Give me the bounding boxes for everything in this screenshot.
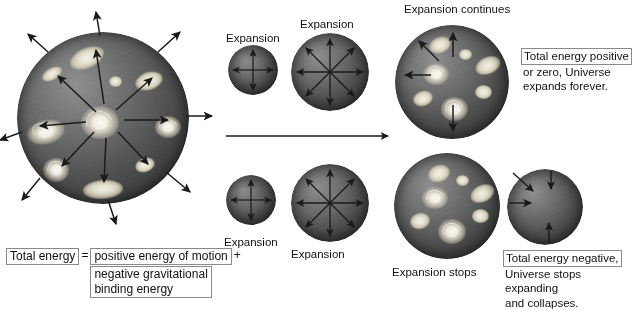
- equation-negative-term: negative gravitationalbinding energy: [90, 266, 211, 298]
- textbox-positive-highlight: Total energy positive: [521, 48, 632, 65]
- universe-top-small: [228, 45, 278, 95]
- caption-expansion-top-2: Expansion: [300, 18, 354, 31]
- sphere-rim: [395, 25, 509, 139]
- equation-right-side: positive energy of motion+negative gravi…: [90, 248, 242, 298]
- universe-bottom-medium: [291, 164, 369, 242]
- universe-bottom-large: [394, 153, 500, 259]
- caption-expansion-top-1: Expansion: [226, 32, 280, 45]
- sphere-rim: [291, 164, 369, 242]
- textbox-negative-line-2: Universe stops expanding: [503, 267, 635, 296]
- universe-top-medium: [291, 33, 369, 111]
- sphere-rim: [291, 33, 369, 111]
- textbox-positive-line-3: expands forever.: [521, 79, 633, 94]
- sphere-rim: [17, 32, 189, 204]
- sphere-rim: [507, 169, 583, 245]
- total-energy-equation: Total energy=positive energy of motion+n…: [6, 248, 243, 298]
- textbox-negative-highlight: Total energy negative,: [503, 250, 622, 267]
- sphere-rim: [394, 153, 500, 259]
- textbox-total-energy-positive: Total energy positive or zero, Universe …: [521, 48, 633, 94]
- equation-equals-sign: =: [79, 248, 90, 263]
- equation-plus-sign: +: [232, 248, 243, 263]
- sphere-rim: [226, 175, 276, 225]
- equation-total-energy: Total energy: [6, 248, 79, 265]
- caption-expansion-bottom-2: Expansion: [291, 248, 345, 261]
- universe-bottom-collapsing: [507, 169, 583, 245]
- universe-large-left: [17, 32, 189, 204]
- caption-expansion-continues: Expansion continues: [404, 3, 510, 16]
- equation-negative-line-2: binding energy: [94, 282, 173, 296]
- equation-negative-line-1: negative gravitational: [94, 267, 207, 281]
- caption-expansion-stops: Expansion stops: [392, 266, 476, 279]
- time-arrow: [224, 128, 399, 144]
- textbox-negative-line-3: and collapses.: [503, 296, 635, 310]
- universe-top-large: [395, 25, 509, 139]
- sphere-rim: [228, 45, 278, 95]
- textbox-positive-line-2: or zero, Universe: [521, 65, 633, 80]
- equation-positive-term: positive energy of motion: [90, 248, 231, 265]
- universe-bottom-small: [226, 175, 276, 225]
- textbox-total-energy-negative: Total energy negative, Universe stops ex…: [503, 250, 635, 310]
